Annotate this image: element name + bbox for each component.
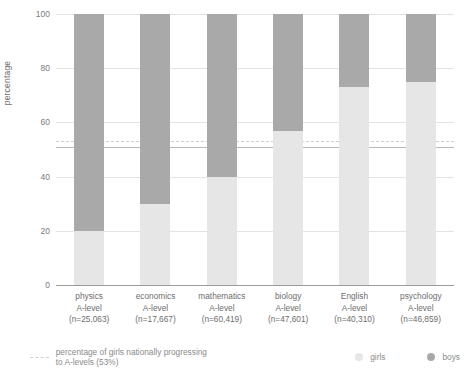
chart-legend: percentage of girls nationally progressi…: [30, 347, 460, 367]
legend-key-girls: girls: [355, 352, 385, 362]
bar-economics[interactable]: [140, 14, 170, 285]
boys-swatch-icon: [427, 353, 435, 361]
x-label-psychology: psychologyA-level(n=46,859): [388, 291, 454, 326]
x-label-English: EnglishA-level(n=40,310): [321, 291, 387, 326]
bar-segment-boys[interactable]: [140, 14, 170, 204]
plot-area: [56, 14, 454, 285]
x-label-physics: physicsA-level(n=25,063): [56, 291, 122, 326]
bar-segment-boys[interactable]: [207, 14, 237, 177]
y-axis-tick-labels: 100806040200: [0, 14, 50, 285]
x-axis-category-labels: physicsA-level(n=25,063)economicsA-level…: [56, 291, 454, 326]
bar-mathematics[interactable]: [207, 14, 237, 285]
x-label-biology: biologyA-level(n=47,601): [255, 291, 321, 326]
y-tick-100: 100: [4, 9, 50, 19]
y-tick-0: 0: [4, 280, 50, 290]
y-tick-80: 80: [4, 63, 50, 73]
y-tick-60: 60: [4, 117, 50, 127]
bar-segment-boys[interactable]: [273, 14, 303, 131]
bar-segment-girls[interactable]: [140, 204, 170, 285]
bar-segment-boys[interactable]: [406, 14, 436, 82]
x-label-mathematics: mathematicsA-level(n=60,419): [189, 291, 255, 326]
bar-segment-girls[interactable]: [207, 177, 237, 285]
legend-key-boys: boys: [427, 352, 460, 362]
legend-reference-label: percentage of girls nationally progressi…: [56, 347, 212, 367]
legend-boys-label: boys: [442, 352, 460, 362]
y-tick-40: 40: [4, 172, 50, 182]
bar-psychology[interactable]: [406, 14, 436, 285]
gridline-0: [56, 285, 454, 286]
bar-segment-girls[interactable]: [273, 131, 303, 285]
bar-segment-boys[interactable]: [339, 14, 369, 87]
legend-girls-label: girls: [370, 352, 385, 362]
bar-segment-boys[interactable]: [74, 14, 104, 231]
x-label-economics: economicsA-level(n=17,667): [122, 291, 188, 326]
bar-segment-girls[interactable]: [339, 87, 369, 285]
bar-segment-girls[interactable]: [406, 82, 436, 285]
y-tick-20: 20: [4, 226, 50, 236]
bar-English[interactable]: [339, 14, 369, 285]
bar-segment-girls[interactable]: [74, 231, 104, 285]
bar-group: [56, 14, 454, 285]
stacked-bar-chart: percentage 100806040200 physicsA-level(n…: [0, 0, 471, 370]
girls-swatch-icon: [355, 353, 363, 361]
bar-biology[interactable]: [273, 14, 303, 285]
reference-line-swatch-icon: [30, 357, 49, 358]
bar-physics[interactable]: [74, 14, 104, 285]
